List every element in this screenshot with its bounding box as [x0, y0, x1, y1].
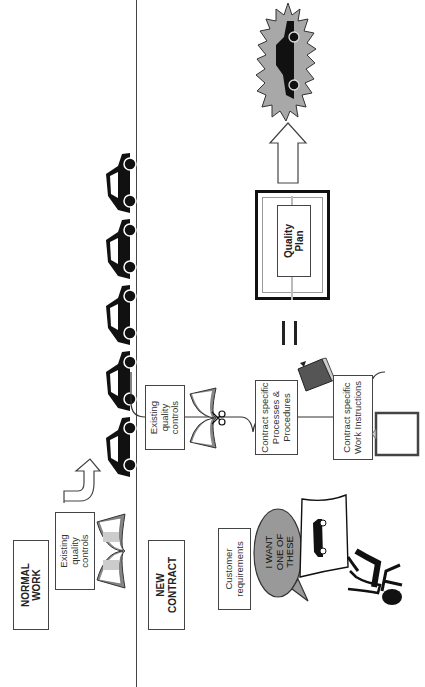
quality-plan-binder: Quality Plan: [255, 190, 330, 300]
new-contract-label: NEW CONTRACT: [155, 557, 178, 613]
customer-requirements-box: Customer requirements: [218, 528, 251, 610]
work-instructions-label: Contract specific Work Instructions: [342, 381, 364, 454]
open-book-scissors-icon: [186, 385, 226, 450]
closed-book-icon: [296, 355, 336, 395]
new-existing-controls-box: Existing quality controls: [145, 385, 185, 450]
curved-arrow-icon: [62, 457, 102, 505]
quality-plan-diagram: NORMAL WORK Existing quality controls: [0, 0, 425, 687]
block-arrow-icon: [268, 121, 308, 185]
normal-work-label: NORMAL WORK: [20, 563, 43, 607]
car-icon: [100, 216, 136, 282]
normal-work-label-box: NORMAL WORK: [13, 540, 49, 630]
new-contract-label-box: NEW CONTRACT: [148, 540, 185, 630]
quality-plan-label: Quality Plan: [283, 224, 306, 258]
car-icon: [100, 150, 136, 216]
starburst-car-icon: [256, 0, 316, 125]
section-divider: [136, 0, 137, 687]
car-icon: [100, 282, 136, 348]
open-book-icon: [95, 512, 127, 590]
equals-sign: [282, 321, 300, 345]
work-instructions-box: Contract specific Work Instructions: [333, 375, 373, 460]
customer-requirements-label: Customer requirements: [224, 541, 246, 596]
person-holding-sign-icon: [296, 477, 406, 627]
new-existing-controls-label: Existing quality controls: [149, 401, 182, 434]
clipboard-icon: [374, 409, 422, 459]
normal-existing-controls-box: Existing quality controls: [55, 512, 95, 590]
normal-existing-controls-label: Existing quality controls: [59, 534, 92, 567]
speech-bubble-text: I WANT ONE OF THESE: [264, 534, 295, 570]
processes-procedures-label: Contract specific Processes & Procedures: [260, 382, 293, 452]
processes-procedures-box: Contract specific Processes & Procedures: [255, 380, 298, 455]
